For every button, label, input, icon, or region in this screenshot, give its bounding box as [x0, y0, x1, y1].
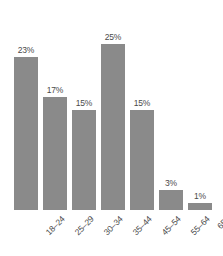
category-label: 35–44 — [131, 214, 154, 237]
plot-area: 23%17%15%25%15%3%1% — [14, 14, 216, 210]
bar-group: 3% — [159, 14, 183, 210]
category-label: 55–64 — [189, 214, 212, 237]
bar-group: 1% — [188, 14, 212, 210]
bar-value-label: 15% — [76, 98, 92, 108]
category-label: 65+ — [215, 214, 223, 231]
bar-group: 25% — [101, 14, 125, 210]
bar-value-label: 3% — [165, 178, 177, 188]
bar — [43, 97, 67, 210]
bar-value-label: 15% — [134, 98, 150, 108]
bar-group: 15% — [130, 14, 154, 210]
bar — [188, 203, 212, 210]
bar-group: 17% — [43, 14, 67, 210]
category-axis: 18–2425–2930–3435–4445–5455–6465+ — [14, 210, 216, 256]
category-label: 30–34 — [102, 214, 125, 237]
bar — [72, 110, 96, 210]
category-label: 25–29 — [73, 214, 96, 237]
bar-value-label: 23% — [18, 45, 34, 55]
bar-value-label: 1% — [194, 191, 206, 201]
bar-value-label: 17% — [47, 85, 63, 95]
category-label: 45–54 — [160, 214, 183, 237]
category-label: 18–24 — [44, 214, 67, 237]
bar-group: 23% — [14, 14, 38, 210]
bar-group: 15% — [72, 14, 96, 210]
bar — [159, 190, 183, 210]
bar — [101, 44, 125, 210]
bar — [14, 57, 38, 210]
bar — [130, 110, 154, 210]
bar-value-label: 25% — [105, 32, 121, 42]
bar-chart: 23%17%15%25%15%3%1% 18–2425–2930–3435–44… — [0, 0, 223, 256]
